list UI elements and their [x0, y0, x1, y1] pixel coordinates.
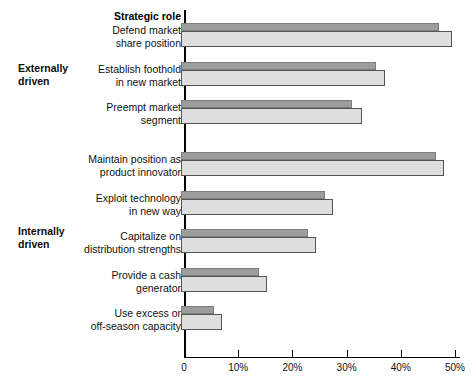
bar-dark — [181, 152, 436, 160]
bar-dark — [181, 268, 259, 276]
group-label: Internally driven — [18, 225, 118, 250]
bar-dark — [181, 306, 214, 314]
bar-chart: 010%20%30%40%50% Strategic role Defend m… — [0, 0, 473, 387]
bar-dark — [181, 62, 376, 70]
bar-light — [181, 108, 362, 124]
x-axis-tick — [292, 350, 293, 358]
bar-dark — [181, 23, 439, 31]
category-label: Maintain position as product innovator — [21, 153, 181, 178]
x-axis-tick — [347, 350, 348, 358]
x-axis-line — [184, 357, 460, 358]
x-axis-tick — [238, 350, 239, 358]
x-axis-tick — [184, 350, 185, 358]
bar-light — [181, 31, 452, 47]
category-label: Defend market share position — [21, 24, 181, 49]
bar-dark — [181, 100, 352, 108]
x-axis-tick — [455, 350, 456, 358]
bar-light — [181, 160, 444, 176]
category-label: Preempt market segment — [21, 101, 181, 126]
x-axis-tick-label: 40% — [391, 362, 411, 373]
x-axis-tick-label: 0 — [181, 362, 187, 373]
bar-light — [181, 276, 267, 292]
x-axis-tick-label: 30% — [337, 362, 357, 373]
bar-light — [181, 70, 385, 86]
chart-title: Strategic role — [21, 10, 181, 22]
bar-light — [181, 314, 222, 330]
category-label: Exploit technology in new way — [21, 192, 181, 217]
x-axis-tick — [401, 350, 402, 358]
bar-dark — [181, 191, 325, 199]
group-label: Externally driven — [18, 62, 118, 87]
x-axis-tick-label: 50% — [445, 362, 465, 373]
x-axis-tick-label: 20% — [282, 362, 302, 373]
category-label: Provide a cash generator — [21, 269, 181, 294]
bar-light — [181, 237, 316, 253]
category-label: Use excess or off-season capacity — [21, 307, 181, 332]
bar-light — [181, 199, 333, 215]
bar-dark — [181, 229, 308, 237]
x-axis-tick-label: 10% — [228, 362, 248, 373]
